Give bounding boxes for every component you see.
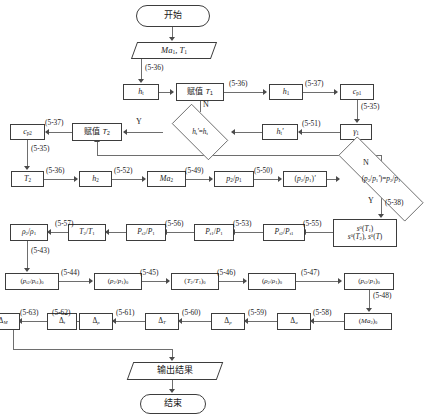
node-ma2-0-label: (Ma2)0 [359, 318, 378, 326]
node-t2: T2 [11, 171, 44, 187]
arrowhead-p2p10-t2t10 [166, 278, 170, 284]
node-delta-p-label: Δp [224, 317, 231, 325]
edge-label-556: (5-56) [165, 219, 183, 228]
arrowhead-cp1-gamma1 [354, 119, 360, 123]
arrowhead-assignt2-cp2 [45, 129, 49, 135]
arrowhead-pt2pt10-p2p10 [89, 278, 93, 284]
node-start: 开始 [136, 5, 210, 27]
arrowhead-decision1-assignt2 [123, 129, 127, 135]
node-ht: ht [123, 84, 159, 100]
node-pt2pt1-0-label: (pt2/pt1)0 [20, 278, 43, 286]
node-assign-t2-label: 赋值 T2 [84, 128, 110, 137]
edge-pt2pt10-p2p10 [59, 281, 92, 282]
node-pt2p1-label: Pt2/P1 [137, 228, 155, 236]
edge-p2p1-p2p1prime [254, 179, 281, 180]
edge-t2-h2 [44, 179, 77, 180]
node-pt2p1-0: (pt2/p1)0 [344, 273, 394, 290]
arrowhead-rho2rho10-pt2p10 [338, 278, 342, 284]
node-delta-p: Δp [211, 313, 245, 330]
edge-label-562: (5-62) [52, 308, 70, 317]
node-delta-T: ΔT [145, 313, 179, 330]
edge-label-538: (5-38) [385, 198, 403, 207]
edge-cp2-t2 [27, 140, 28, 167]
node-pt2pt1: Pt2/Pt1 [263, 224, 305, 241]
node-ma2: Ma2 [147, 171, 186, 187]
node-pt2p1-0-label: (pt2/p1)0 [358, 278, 380, 286]
node-decision2-label: (p2/p1')=p2/p1 [362, 175, 401, 183]
node-ht-prime-label: ht' [276, 128, 283, 137]
edge-label-563: (5-63) [20, 308, 38, 317]
edge-pt2p10-ma20 [369, 290, 370, 309]
arrowhead-output-end [169, 389, 175, 393]
node-end-label: 结束 [164, 399, 182, 408]
arrowhead-gamma1-htprime [298, 129, 302, 135]
edge-label-537-b: (5-37) [45, 118, 63, 127]
node-output: 输出结果 [130, 362, 220, 380]
edge-pt2p1-t2t1 [106, 232, 126, 233]
edge-input-ht [141, 59, 142, 80]
node-pt1p1: Pt1/P1 [194, 224, 234, 241]
node-delta-a: Δa [277, 313, 311, 330]
edge-t2t10-rho2rho10 [219, 281, 246, 282]
node-assign-t1-label: 赋值 T1 [187, 88, 213, 97]
edge-deltap-deltaT [179, 321, 211, 322]
edge-label-559: (5-59) [248, 308, 266, 317]
node-s0: s0(T1) s0(T2), s0(T) [333, 219, 397, 247]
node-cp1-label: cp1 [353, 88, 362, 97]
node-ht-prime: ht' [262, 124, 298, 140]
edge-label-536-b: (5-36) [229, 79, 247, 88]
node-decision1-label: ht'=ht [192, 128, 208, 136]
node-delta-rho-label: Δρ [92, 317, 99, 325]
edge-label-561: (5-61) [116, 308, 134, 317]
node-t2-label: T2 [24, 175, 31, 184]
node-input-label: Ma1, T1 [161, 46, 187, 56]
node-assign-t2: 赋值 T2 [72, 123, 122, 141]
edge-h1-cp1 [303, 92, 337, 93]
arrowhead-pt2p10-ma20 [366, 308, 372, 312]
node-rho2rho1-0: (ρ2/ρ1)0 [248, 273, 296, 290]
node-rho2rho1: ρ2/ρ1 [10, 224, 48, 241]
node-delta-t-label: Δt [59, 317, 65, 325]
branch-label-d2-yes: Y [368, 196, 374, 205]
node-decision2: (p2/p1')=p2/p1 [314, 160, 428, 198]
edge-ma20-deltaa [311, 321, 344, 322]
edge-deltaa-deltap [245, 321, 277, 322]
node-delta-rho: Δρ [79, 313, 113, 330]
node-cp1: cp1 [340, 84, 374, 100]
edge-pt1p1-pt2p1 [164, 232, 194, 233]
edge-s0-pt2pt1 [303, 232, 333, 233]
node-rho2rho1-0-label: (ρ2/ρ1)0 [262, 278, 282, 286]
node-p2p1-prime-label: (p2/p1)' [294, 175, 315, 183]
arrowhead-t2t10-rho2rho10 [243, 278, 247, 284]
edge-label-535-b: (5-35) [31, 144, 49, 153]
edge-label-555: (5-55) [303, 219, 321, 228]
edge-cp1-gamma1 [357, 100, 358, 120]
edge-label-547: (5-47) [301, 268, 319, 277]
edge-label-560: (5-60) [182, 308, 200, 317]
node-s0-line2: s0(T2), s0(T) [348, 233, 382, 241]
node-ma2-0: (Ma2)0 [344, 313, 392, 330]
node-t2t1-0: (T2/T1)0 [171, 273, 219, 290]
arrowhead-t2-h2 [74, 176, 78, 182]
edge-label-550: (5-50) [254, 166, 272, 175]
edge-h2-ma2 [112, 179, 145, 180]
edge-pt2pt1-pt1p1 [232, 232, 263, 233]
edge-assignt1-h1 [224, 92, 266, 93]
edge-rho2rho1-pt2pt10 [27, 241, 28, 269]
branch-label-d2-no: N [363, 158, 369, 167]
edge-label-551: (5-51) [302, 119, 320, 128]
edge-label-548: (5-48) [373, 291, 391, 300]
node-delta-T-label: ΔT [158, 317, 166, 325]
edge-label-549: (5-49) [185, 166, 203, 175]
node-cp2: cp2 [10, 124, 45, 140]
edge-label-543: (5-43) [31, 246, 49, 255]
edge-label-546: (5-46) [217, 268, 235, 277]
edge-decision2-yes [381, 198, 382, 215]
edge-label-537-a: (5-37) [305, 79, 323, 88]
arrowhead-input-ht [138, 79, 144, 83]
edge-decision1-yes [124, 132, 163, 133]
node-delta-M-label: ΔM [0, 317, 7, 325]
edge-label-553: (5-53) [233, 219, 251, 228]
node-pt2p1: Pt2/P1 [126, 224, 166, 241]
